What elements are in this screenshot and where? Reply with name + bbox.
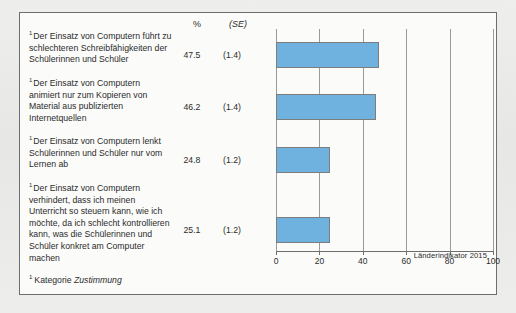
bar-1: [276, 42, 379, 68]
bar-3: [276, 147, 330, 173]
footnote-category: Zustimmung: [74, 275, 122, 285]
statement-text: Der Einsatz von Computern führt zu schle…: [29, 31, 171, 64]
statement-text: Der Einsatz von Computern verhindert, da…: [29, 183, 170, 263]
statement-marker: 1: [29, 182, 32, 188]
value-cells: 24.8(1.2): [172, 136, 252, 183]
x-tick-60: [406, 251, 407, 255]
statement-marker: 1: [29, 135, 32, 141]
x-tick-40: [363, 251, 364, 255]
footnote-text: Kategorie: [34, 275, 74, 285]
bar-chart-plot-area: [256, 29, 494, 251]
value-cells: 25.1(1.2): [172, 183, 252, 276]
bar-4: [276, 217, 330, 243]
x-tick-label-0: 0: [264, 256, 288, 266]
gridline-60: [406, 29, 407, 251]
x-tick-0: [276, 251, 277, 255]
se-value: (1.2): [212, 225, 252, 235]
figure-frame: % (SE) 1Der Einsatz von Computern führt …: [19, 12, 497, 295]
statement-label: 1Der Einsatz von Computern führt zu schl…: [20, 31, 172, 66]
se-value: (1.2): [212, 155, 252, 165]
statement-label: 1Der Einsatz von Computern animiert nur …: [20, 78, 172, 124]
statement-text: Der Einsatz von Computern lenkt Schüleri…: [29, 136, 162, 169]
percent-value: 46.2: [172, 102, 212, 112]
percent-value: 47.5: [172, 50, 212, 60]
value-cells: 46.2(1.4): [172, 78, 252, 136]
gridline-80: [450, 29, 451, 251]
x-tick-20: [319, 251, 320, 255]
column-header-percent: %: [180, 19, 214, 29]
statement-label: 1Der Einsatz von Computern verhindert, d…: [20, 183, 172, 264]
percent-value: 24.8: [172, 155, 212, 165]
column-header-se: (SE): [220, 19, 256, 29]
se-value: (1.4): [212, 50, 252, 60]
footnote: 1Kategorie Zustimmung: [29, 275, 122, 285]
x-tick-label-40: 40: [351, 256, 375, 266]
bar-2: [276, 94, 376, 120]
se-value: (1.4): [212, 102, 252, 112]
statement-text: Der Einsatz von Computern animiert nur z…: [29, 78, 147, 123]
footnote-marker: 1: [29, 274, 32, 280]
x-tick-label-20: 20: [307, 256, 331, 266]
figure-inner: % (SE) 1Der Einsatz von Computern führt …: [20, 13, 496, 294]
source-label: Länderindikator 2015: [414, 251, 487, 260]
gridline-100: [493, 29, 494, 251]
percent-value: 25.1: [172, 225, 212, 235]
statement-marker: 1: [29, 77, 32, 83]
statement-label: 1Der Einsatz von Computern lenkt Schüler…: [20, 136, 172, 171]
statement-marker: 1: [29, 30, 32, 36]
value-cells: 47.5(1.4): [172, 31, 252, 78]
x-tick-100: [493, 251, 494, 255]
